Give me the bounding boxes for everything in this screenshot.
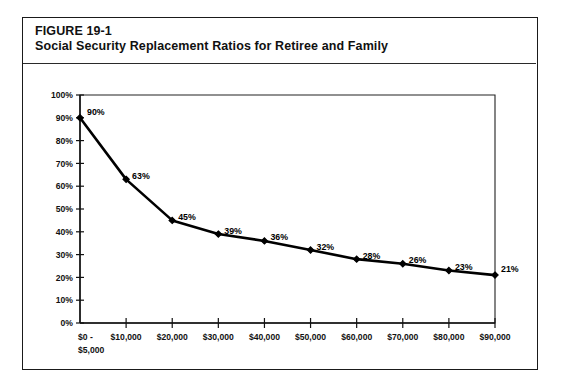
data-point-label: 28%	[363, 251, 381, 261]
y-tick-label: 70%	[56, 159, 74, 169]
x-tick-label: $80,000	[433, 332, 464, 342]
x-tick-label: $30,000	[203, 332, 234, 342]
data-point-label: 36%	[270, 232, 288, 242]
data-point-label: 32%	[317, 242, 335, 252]
x-tick-label: $50,000	[295, 332, 326, 342]
data-series-line	[80, 118, 495, 275]
replacement-ratio-line-chart: 90%63%45%39%36%32%28%26%23%21% 0%10%20%3…	[23, 63, 536, 369]
figure-number-label: FIGURE 19-1	[35, 24, 515, 39]
y-tick-label: 50%	[56, 204, 74, 214]
x-tick-label: $10,000	[111, 332, 142, 342]
plot-frame	[80, 95, 495, 323]
data-point-marker	[354, 256, 360, 262]
y-tick-label: 30%	[56, 250, 74, 260]
x-tick-label: $5,000	[78, 345, 105, 355]
data-point-marker	[215, 231, 221, 237]
chart-area: 90%63%45%39%36%32%28%26%23%21% 0%10%20%3…	[23, 63, 536, 369]
x-tick-label: $90,000	[479, 332, 510, 342]
x-tick-label: $0 -	[78, 332, 93, 342]
data-point-label: 90%	[87, 107, 105, 117]
figure-title: Social Security Replacement Ratios for R…	[35, 39, 515, 54]
x-tick-label: $20,000	[157, 332, 188, 342]
data-point-label: 26%	[409, 255, 427, 265]
data-point-label: 39%	[224, 226, 242, 236]
y-tick-label: 60%	[56, 181, 74, 191]
data-point-label: 23%	[455, 262, 473, 272]
y-tick-label: 20%	[56, 273, 74, 283]
data-point-label: 45%	[178, 212, 196, 222]
figure-title-block: FIGURE 19-1 Social Security Replacement …	[35, 24, 515, 54]
data-point-marker	[400, 261, 406, 267]
data-point-marker	[307, 247, 313, 253]
y-tick-label: 100%	[51, 90, 73, 100]
y-axis-tick-labels: 0%10%20%30%40%50%60%70%80%90%100%	[51, 90, 73, 328]
data-point-marker	[492, 272, 498, 278]
data-point-marker	[446, 267, 452, 273]
data-point-markers	[77, 115, 498, 279]
data-point-label: 63%	[132, 171, 150, 181]
x-tick-label: $40,000	[249, 332, 280, 342]
figure-box: FIGURE 19-1 Social Security Replacement …	[22, 17, 538, 370]
x-tick-label: $60,000	[341, 332, 372, 342]
y-tick-label: 0%	[61, 318, 74, 328]
x-tick-label: $70,000	[387, 332, 418, 342]
data-point-label: 21%	[501, 264, 519, 274]
y-tick-label: 90%	[56, 113, 74, 123]
y-tick-label: 10%	[56, 295, 74, 305]
x-axis-tick-labels: $0 -$5,000$10,000$20,000$30,000$40,000$5…	[78, 332, 511, 355]
y-tick-label: 80%	[56, 136, 74, 146]
data-point-marker	[261, 238, 267, 244]
y-tick-label: 40%	[56, 227, 74, 237]
